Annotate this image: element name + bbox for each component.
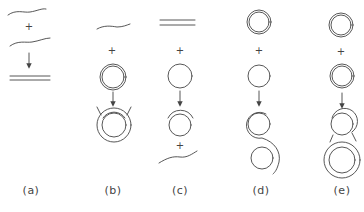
single-strand — [10, 38, 50, 46]
product-lower-inner — [329, 147, 355, 173]
product-lower-circle — [251, 147, 273, 169]
panel-e — [324, 13, 360, 178]
double-circle-inner — [102, 66, 124, 88]
junction-left — [330, 135, 333, 142]
panel-b — [97, 24, 131, 142]
plus-sign-c-bottom: + — [176, 141, 184, 151]
double-circle-inner — [332, 66, 352, 86]
junction-right — [352, 133, 356, 141]
double-circle-outer — [330, 64, 354, 88]
plus-sign-d: + — [255, 46, 263, 56]
double-circle-outer — [100, 64, 126, 90]
panel-label-c: (c) — [172, 184, 188, 197]
double-circle-inner — [331, 15, 351, 35]
released-strand — [159, 151, 197, 163]
product-inner-circle — [102, 113, 126, 137]
panel-label-a: (a) — [23, 184, 40, 197]
transferred-strand — [246, 112, 279, 174]
product-upper-circle — [248, 113, 270, 135]
single-strand — [8, 9, 46, 15]
double-circle-outer — [329, 13, 353, 37]
plus-sign-a: + — [25, 22, 33, 32]
plus-sign-b: + — [108, 46, 116, 56]
product-circle — [169, 114, 191, 136]
diagram-canvas — [0, 0, 364, 212]
single-circle — [248, 65, 270, 87]
panel-label-e: (e) — [334, 184, 351, 197]
double-circle-inner — [249, 12, 269, 32]
strand-tail-left — [97, 107, 101, 115]
plus-sign-c-top: + — [176, 46, 184, 56]
plus-sign-e: + — [337, 47, 345, 57]
panel-label-d: (d) — [252, 184, 269, 197]
panel-a — [8, 9, 50, 80]
double-circle-outer — [247, 10, 271, 34]
strand-tail-right — [127, 107, 131, 115]
single-circle — [168, 64, 192, 88]
panel-d — [246, 10, 279, 174]
product-upper-strand — [332, 108, 358, 132]
single-strand — [97, 24, 130, 29]
product-upper-circle — [331, 113, 353, 135]
panel-label-b: (b) — [104, 184, 121, 197]
